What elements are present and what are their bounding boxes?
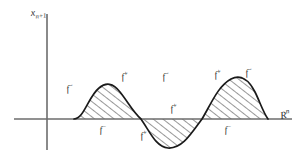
label-f-minus-below-hump2: f− — [224, 123, 233, 135]
label-f-minus-hump1-left: f− — [65, 81, 74, 94]
label-f-minus-trough-top: f− — [161, 69, 170, 82]
label-f-plus-hump1-right: f+ — [120, 69, 129, 82]
math-figure: xn+1 Rn f− f+ f− f− f+ f+ — [0, 0, 306, 162]
figure-container: xn+1 Rn f− f+ f− f− f+ f+ — [0, 0, 306, 162]
label-f-plus-hump2-left: f+ — [213, 67, 222, 80]
y-axis-label: xn+1 — [29, 5, 47, 20]
label-f-minus-hump2-right: f− — [244, 65, 253, 78]
label-f-minus-below-hump1: f− — [99, 123, 108, 135]
label-f-plus-trough-in: f+ — [169, 101, 178, 114]
hatch-second-hump — [198, 70, 274, 125]
